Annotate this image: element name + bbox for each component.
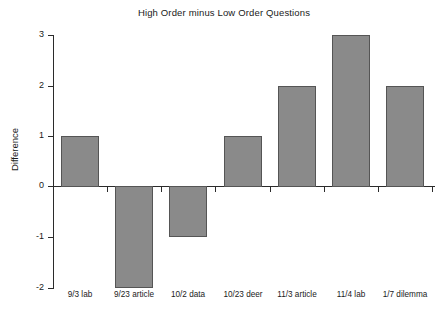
- y-tick-label: 0: [16, 181, 44, 190]
- y-tick-label: -1: [16, 232, 44, 241]
- y-tick-mark: [48, 186, 54, 187]
- y-tick-label: 1: [16, 131, 44, 140]
- bar-chart-figure: High Order minus Low Order Questions Dif…: [0, 0, 448, 325]
- x-tick-label-4: 11/3 article: [267, 291, 327, 299]
- y-tick-mark: [48, 288, 54, 289]
- x-tick-label-6: 1/7 dilemma: [375, 291, 435, 299]
- y-tick-mark: [48, 35, 54, 36]
- bar-1: [115, 186, 153, 288]
- bar-6: [386, 86, 424, 187]
- y-tick-label: 3: [16, 30, 44, 39]
- y-tick-label-wrap: 2: [16, 81, 44, 91]
- bar-5: [332, 35, 370, 187]
- x-tick-mark: [378, 187, 379, 192]
- x-tick-mark: [215, 187, 216, 192]
- y-tick-mark: [48, 136, 54, 137]
- y-tick-label: -2: [16, 283, 44, 292]
- y-tick-label-wrap: 3: [16, 30, 44, 40]
- bar-0: [61, 136, 99, 187]
- x-tick-mark: [107, 187, 108, 192]
- y-tick-label-wrap: -2: [16, 283, 44, 293]
- y-tick-label-wrap: 0: [16, 181, 44, 191]
- x-tick-label-5: 11/4 lab: [321, 291, 381, 299]
- bar-4: [278, 86, 316, 187]
- bar-2: [169, 186, 207, 237]
- y-tick-mark: [48, 237, 54, 238]
- plot-area: 3 2 1 0 -1 -2: [0, 0, 448, 325]
- x-tick-mark: [324, 187, 325, 192]
- x-tick-label-3: 10/23 deer: [213, 291, 273, 299]
- y-axis-spine: [53, 35, 54, 289]
- y-tick-label-wrap: 1: [16, 131, 44, 141]
- x-tick-label-2: 10/2 data: [158, 291, 218, 299]
- bar-3: [224, 136, 262, 187]
- y-tick-mark: [48, 86, 54, 87]
- x-tick-mark: [270, 187, 271, 192]
- x-tick-label-0: 9/3 lab: [50, 291, 110, 299]
- cut-off-caption: [18, 316, 233, 322]
- x-tick-mark: [432, 187, 433, 192]
- x-tick-mark: [161, 187, 162, 192]
- y-tick-label-wrap: -1: [16, 232, 44, 242]
- x-tick-label-1: 9/23 article: [104, 291, 164, 299]
- y-tick-label: 2: [16, 81, 44, 90]
